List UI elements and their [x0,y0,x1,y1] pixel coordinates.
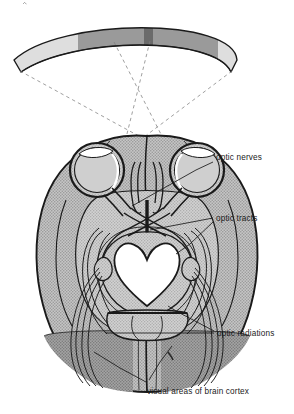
label-optic-radiations: optic radiations [217,329,274,338]
label-optic-tracts: optic tracts [216,214,257,223]
label-optic-nerves: optic nerves [216,153,262,162]
label-visual-areas-of-brain-cortex: visual areas of brain cortex [147,387,249,396]
anatomical-figure: optic nerves optic tracts optic radiatio… [0,0,294,414]
visual-pathway-diagram: optic nerves optic tracts optic radiatio… [0,0,294,414]
lateral-geniculate-right [182,257,200,280]
brain-section [36,136,257,392]
cerebellum [107,310,188,341]
lateral-geniculate-left [94,257,112,280]
